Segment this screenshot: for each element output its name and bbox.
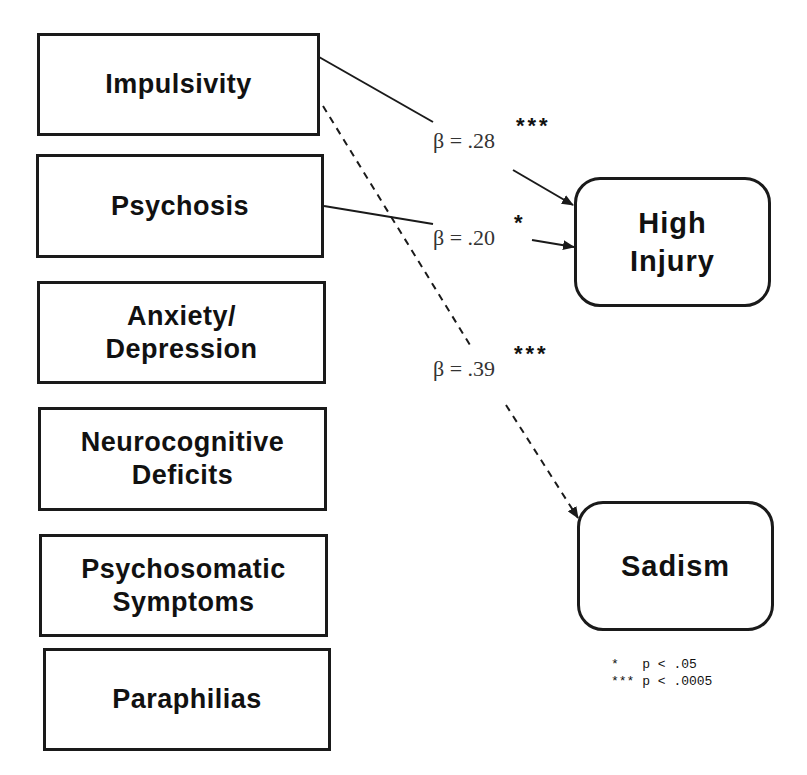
- outcome-label: High Injury: [630, 204, 715, 280]
- predictor-psychosis: Psychosis: [36, 154, 324, 258]
- predictor-label: Psychosomatic Symptoms: [81, 553, 286, 619]
- predictor-impulsivity: Impulsivity: [37, 33, 320, 136]
- outcome-high-injury: High Injury: [574, 177, 771, 307]
- predictor-anxiety-depression: Anxiety/ Depression: [37, 281, 326, 384]
- significance-stars: *: [514, 210, 526, 236]
- significance-legend: * p < .05*** p < .0005: [611, 656, 712, 690]
- outcome-sadism: Sadism: [577, 501, 774, 631]
- predictor-psychosomatic-symptoms: Psychosomatic Symptoms: [39, 534, 328, 637]
- significance-stars: ***: [516, 113, 551, 139]
- beta-label-impulsivity-sadism: β = .39: [433, 356, 495, 382]
- predictor-label: Anxiety/ Depression: [105, 300, 257, 366]
- path-diagram: Impulsivity Psychosis Anxiety/ Depressio…: [0, 0, 807, 775]
- predictor-neurocognitive-deficits: Neurocognitive Deficits: [38, 407, 327, 511]
- legend-line-p05: * p < .05: [611, 656, 712, 673]
- predictor-label: Paraphilias: [112, 683, 262, 716]
- predictor-label: Neurocognitive Deficits: [81, 426, 285, 492]
- legend-line-p0005: *** p < .0005: [611, 673, 712, 690]
- outcome-label: Sadism: [621, 547, 730, 585]
- path-impulsivity-sadism: [323, 106, 578, 518]
- beta-label-psychosis-injury: β = .20: [433, 225, 495, 251]
- significance-stars: ***: [514, 341, 549, 367]
- predictor-label: Psychosis: [111, 190, 249, 223]
- predictor-paraphilias: Paraphilias: [43, 648, 331, 751]
- beta-label-impulsivity-injury: β = .28: [433, 128, 495, 154]
- predictor-label: Impulsivity: [105, 68, 252, 101]
